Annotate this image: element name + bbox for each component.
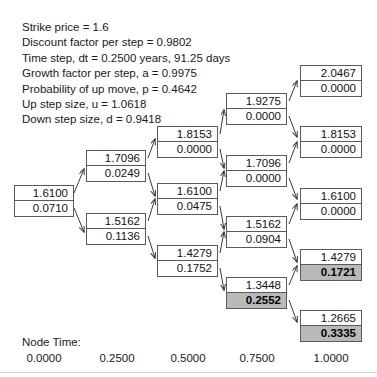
node-value: 0.0000: [301, 81, 361, 96]
node-value: 0.0475: [158, 199, 217, 214]
node-price: 1.9275: [227, 94, 286, 109]
axis-tick: 0.2500: [86, 352, 148, 364]
binomial-tree-figure: Strike price = 1.6 Discount factor per s…: [0, 0, 377, 377]
tree-node: 1.3448 0.2552: [226, 277, 287, 309]
node-price: 1.3448: [227, 278, 286, 293]
footer-divider: [0, 372, 377, 373]
parameter-growth-factor: Growth factor per step, a = 0.9975: [22, 66, 322, 81]
node-price: 1.8153: [158, 127, 217, 142]
tree-node: 1.8153 0.0000: [157, 126, 218, 158]
node-value: 0.3335: [301, 326, 361, 341]
node-value: 0.0000: [227, 171, 286, 186]
node-value: 0.0710: [15, 201, 73, 216]
node-price: 1.2665: [301, 311, 361, 326]
tree-node: 1.2665 0.3335: [300, 310, 362, 342]
node-price: 1.6100: [301, 189, 361, 204]
node-time-label: Node Time:: [22, 336, 81, 348]
tree-node: 1.4279 0.1752: [157, 245, 218, 277]
tree-node: 2.0467 0.0000: [300, 65, 362, 97]
node-price: 1.7096: [227, 156, 286, 171]
tree-node: 1.5162 0.1136: [86, 213, 146, 245]
node-price: 2.0467: [301, 66, 361, 81]
axis-tick: 0.0000: [13, 352, 75, 364]
node-price: 1.4279: [158, 246, 217, 261]
node-price: 1.5162: [227, 217, 286, 232]
node-value: 0.0904: [227, 232, 286, 247]
parameter-strike-price: Strike price = 1.6: [22, 20, 322, 35]
node-value: 0.2552: [227, 293, 286, 308]
node-price: 1.8153: [301, 127, 361, 142]
node-value: 0.0000: [227, 109, 286, 124]
tree-node: 1.7096 0.0000: [226, 155, 287, 187]
node-value: 0.0000: [301, 142, 361, 157]
axis-tick: 1.0000: [300, 352, 362, 364]
node-price: 1.4279: [301, 250, 361, 265]
parameter-discount-factor: Discount factor per step = 0.9802: [22, 35, 322, 50]
node-value: 0.1136: [87, 229, 145, 244]
node-price: 1.6100: [15, 186, 73, 201]
node-value: 0.0000: [301, 204, 361, 219]
node-price: 1.5162: [87, 214, 145, 229]
node-price: 1.7096: [87, 151, 145, 166]
parameter-time-step: Time step, dt = 0.2500 years, 91.25 days: [22, 51, 322, 66]
axis-tick: 0.5000: [157, 352, 219, 364]
tree-node: 1.6100 0.0475: [157, 183, 218, 215]
node-value: 0.0000: [158, 142, 217, 157]
tree-node: 1.6100 0.0000: [300, 188, 362, 220]
tree-node: 1.9275 0.0000: [226, 93, 287, 125]
tree-node: 1.5162 0.0904: [226, 216, 287, 248]
tree-node: 1.6100 0.0710: [14, 185, 74, 217]
tree-node: 1.4279 0.1721: [300, 249, 362, 281]
node-value: 0.1721: [301, 265, 361, 280]
node-price: 1.6100: [158, 184, 217, 199]
tree-node: 1.8153 0.0000: [300, 126, 362, 158]
node-value: 0.0249: [87, 166, 145, 181]
axis-tick: 0.7500: [226, 352, 288, 364]
node-value: 0.1752: [158, 261, 217, 276]
tree-node: 1.7096 0.0249: [86, 150, 146, 182]
